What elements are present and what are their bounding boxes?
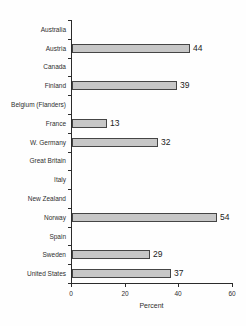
y-axis-tick	[68, 114, 71, 115]
x-axis-line	[71, 283, 233, 284]
y-axis-tick	[68, 20, 71, 21]
x-axis-tick	[178, 284, 179, 287]
bar	[72, 81, 177, 90]
value-label: 13	[110, 119, 119, 128]
y-axis-tick	[68, 170, 71, 171]
y-axis-tick	[68, 152, 71, 153]
bar-chart: Percent AustraliaAustria44CanadaFinland3…	[0, 0, 246, 326]
y-axis-tick	[68, 208, 71, 209]
category-label: France	[0, 120, 66, 127]
y-axis-tick	[68, 245, 71, 246]
category-label: Norway	[0, 214, 66, 221]
category-label: Great Britain	[0, 157, 66, 164]
category-label: New Zealand	[0, 195, 66, 202]
y-axis-tick	[68, 133, 71, 134]
bar	[72, 250, 150, 259]
category-label: Belgium (Flanders)	[0, 101, 66, 108]
category-label: Austria	[0, 45, 66, 52]
x-axis-tick	[125, 284, 126, 287]
y-axis-tick	[68, 76, 71, 77]
y-axis-tick	[68, 39, 71, 40]
x-tick-label: 20	[121, 290, 128, 297]
x-tick-label: 0	[69, 290, 73, 297]
x-axis-title: Percent	[139, 302, 163, 310]
y-axis-tick	[68, 95, 71, 96]
y-axis-tick	[68, 58, 71, 59]
category-label: W. Germany	[0, 139, 66, 146]
x-axis-tick	[232, 284, 233, 287]
x-tick-label: 60	[228, 290, 235, 297]
value-label: 44	[193, 44, 202, 53]
value-label: 39	[180, 81, 189, 90]
bar	[72, 44, 190, 53]
value-label: 37	[174, 269, 183, 278]
bar	[72, 119, 107, 128]
category-label: Sweden	[0, 251, 66, 258]
bar	[72, 269, 171, 278]
category-label: Australia	[0, 26, 66, 33]
value-label: 54	[220, 213, 229, 222]
value-label: 29	[153, 250, 162, 259]
category-label: Spain	[0, 233, 66, 240]
category-label: United States	[0, 270, 66, 277]
y-axis-tick	[68, 189, 71, 190]
x-tick-label: 40	[174, 290, 181, 297]
y-axis-line	[71, 20, 72, 284]
bar	[72, 138, 158, 147]
category-label: Finland	[0, 82, 66, 89]
y-axis-tick	[68, 264, 71, 265]
bar	[72, 213, 217, 222]
x-axis-tick	[71, 284, 72, 287]
value-label: 32	[161, 138, 170, 147]
plot-area: Percent AustraliaAustria44CanadaFinland3…	[0, 0, 246, 326]
category-label: Canada	[0, 63, 66, 70]
y-axis-tick	[68, 227, 71, 228]
category-label: Italy	[0, 176, 66, 183]
